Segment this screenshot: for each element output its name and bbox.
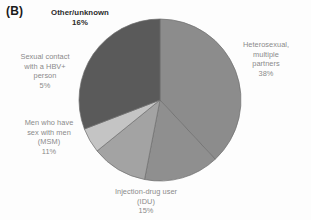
figure-panel-b: (B) Other/unknown 16% Sexual contact wit…: [0, 0, 311, 220]
slice-label-other-unknown: Other/unknown 16%: [30, 8, 130, 28]
pie-slice-group: [79, 19, 241, 181]
slice-label-sexual-contact: Sexual contact with a HBV+ person 5%: [2, 52, 88, 90]
slice-label-heterosexual: Heterosexual, multiple partners 38%: [224, 40, 308, 78]
slice-label-msm: Men who have sex with men (MSM) 11%: [2, 118, 96, 156]
slice-label-idu: Injection-drug user (IDU) 15%: [88, 187, 204, 216]
